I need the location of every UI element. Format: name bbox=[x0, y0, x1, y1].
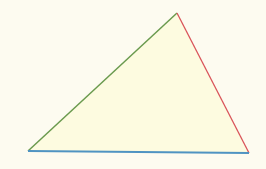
triangle-diagram bbox=[0, 0, 266, 169]
triangle-fill bbox=[28, 13, 249, 153]
